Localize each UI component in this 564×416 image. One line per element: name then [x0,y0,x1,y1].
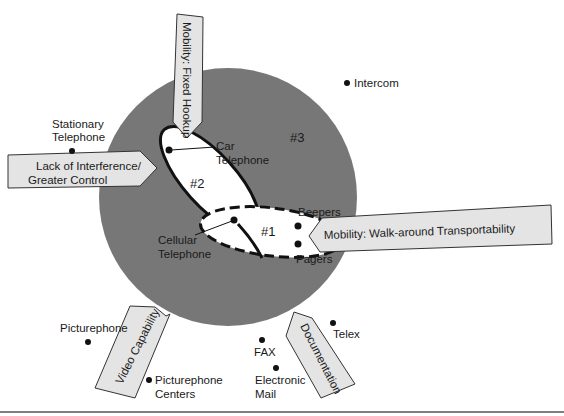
stationary-label-1: Stationary [52,118,104,130]
stationary-label-2: Telephone [52,131,105,143]
arrow-interference-label-2: Greater Control [28,174,107,186]
intercom-dot [344,80,350,86]
car-telephone-label-2: Telephone [216,154,269,166]
beepers-dot [295,223,302,230]
stationary-dot [69,148,75,154]
picturephone-label: Picturephone [60,322,128,334]
electronic-mail-label-1: Electronic [255,374,306,386]
telex-dot [330,320,336,326]
fax-label: FAX [254,346,276,358]
cellular-telephone-dot [231,217,238,224]
arrow-fixed-hookup-label: Mobility: Fixed Hookup [181,22,193,138]
picturephone-dot [85,339,91,345]
intercom-label: Intercom [354,77,399,89]
picturephone-centers-dot [146,377,152,383]
arrow-interference-label-1: Lack of Interference/ [36,160,142,172]
fax-dot [259,337,265,343]
pagers-dot [295,241,302,248]
telex-label: Telex [333,328,360,340]
electronic-mail-label-2: Mail [255,388,276,400]
car-telephone-label-1: Car [216,140,235,152]
pagers-label: Pagers [296,253,333,265]
picturephone-centers-label-2: Centers [155,388,196,400]
cellular-telephone-label-1: Cellular [158,234,197,246]
cellular-telephone-label-2: Telephone [158,248,211,260]
electronic-mail-dot [273,365,279,371]
region-2-label: #2 [190,176,204,191]
region-1-label: #1 [261,224,275,239]
beepers-label: Beepers [298,206,341,218]
region-3-label: #3 [290,130,304,145]
picturephone-centers-label-1: Picturephone [155,374,223,386]
telecom-technology-diagram: Mobility: Fixed Hookup Lack of Interfere… [0,0,564,416]
